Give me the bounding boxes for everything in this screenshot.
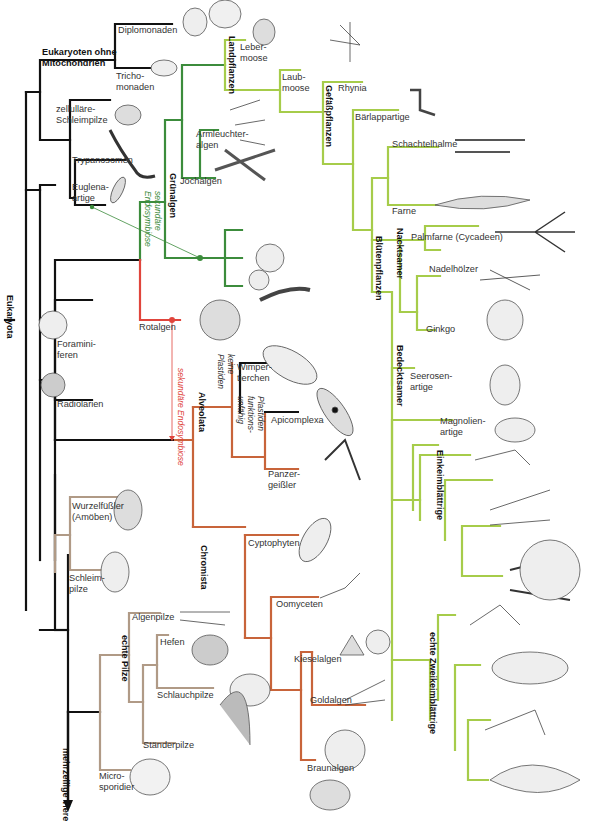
taxon-magnolienartige: Magnolien- artige	[440, 416, 485, 438]
annotation-sekundaere-endosymbiose-red: sekundäre Endosymbiose	[176, 368, 186, 466]
label-mehrzellige-tiere: mehrzellige Tiere	[60, 748, 71, 821]
label-nacktsamer: Nacktsamer	[394, 228, 405, 279]
taxon-schleimpilze: Schleim- pilze	[69, 573, 105, 595]
label-gefaesspflanzen: Gefäßpflanzen	[323, 85, 334, 147]
taxon-foraminiferen: Foramini- feren	[57, 339, 96, 361]
taxon-seerosenartige: Seerosen- artige	[410, 371, 452, 393]
taxon-wimpertierchen: Wimper- tierchen	[237, 362, 272, 384]
taxon-trypanosomen: Trypanosomen	[72, 155, 133, 166]
taxon-schachtelhalme: Schachtelhalme	[392, 139, 457, 150]
taxon-kieselalgen: Kieselalgen	[294, 654, 342, 665]
taxon-panzergeissler: Panzer- geißler	[268, 469, 300, 491]
annotation-plastiden-funktionsunfaehig: Plastiden funktions- unfähig	[236, 396, 266, 433]
label-zweikeimblaettrige: echte Zweikeimblättrige	[427, 632, 438, 734]
tan-branches	[55, 497, 213, 770]
taxon-oomyceten: Oomyceten	[276, 599, 323, 610]
taxon-nadelhoelzer: Nadelhölzer	[429, 264, 478, 275]
taxon-trichomonaden: Tricho- monaden	[116, 71, 154, 93]
taxon-laubmoose: Laub- moose	[282, 72, 310, 94]
taxon-ginkgo: Ginkgo	[426, 324, 455, 335]
taxon-algenpilze: Algenpilze	[132, 612, 174, 623]
label-echte-pilze: echte Pilze	[119, 635, 130, 682]
taxon-cyptophyten: Cyptophyten	[248, 538, 300, 549]
taxon-goldalgen: Goldalgen	[310, 695, 352, 706]
taxon-palmfarne: Palmfarne (Cycadeen)	[411, 232, 503, 243]
taxon-euglena: Euglena- artige	[72, 182, 109, 204]
label-landpflanzen: Landpflanzen	[226, 36, 237, 94]
annotation-keine-plastiden: keine Plastiden	[216, 354, 236, 389]
label-chromista: Chromista	[198, 545, 209, 590]
label-eukaryoten-ohne-mito: Eukaryoten ohne Mitochondrien	[42, 47, 117, 69]
taxon-rhynia: Rhynia	[338, 83, 367, 94]
annotation-sekundaere-endosymbiose-green: sekundäre Endosymbiose	[143, 191, 163, 247]
taxon-baerlappartige: Bärlappartige	[355, 112, 410, 123]
organism-illustrations	[39, 0, 580, 810]
taxon-farne: Farne	[392, 206, 416, 217]
taxon-braunalgen: Braunalgen	[307, 763, 354, 774]
label-gruenalgen: Grünalgen	[167, 173, 178, 218]
taxon-lebermoose: Leber- moose	[240, 42, 268, 64]
taxon-hefen: Hefen	[160, 637, 185, 648]
taxon-rotalgen: Rotalgen	[139, 322, 176, 333]
label-bluetenpflanzen: Blütenpflanzen	[373, 236, 384, 301]
label-eukaryota: Eukaryota	[4, 295, 15, 339]
taxon-staenderpilze: Ständerpilze	[143, 740, 194, 751]
taxon-diplomonaden: Diplomonaden	[118, 25, 177, 36]
label-alveolata: Alveolata	[196, 392, 207, 432]
taxon-apicomplexa: Apicomplexa	[271, 415, 324, 426]
taxon-radiolarien: Radiolarien	[57, 399, 103, 410]
taxon-armleuchteralgen: Armleuchter- algen	[196, 129, 249, 151]
label-bedecktsamer: Bedecktsamer	[394, 345, 405, 407]
taxon-wurzelfuessler: Wurzelfüßler (Amöben)	[72, 501, 124, 523]
taxon-zellulaere-schleimpilze: zellulläre- Schleimpilze	[56, 104, 108, 126]
label-einkeimblaettrige: Einkeimblättrige	[434, 450, 445, 520]
red-branches	[140, 260, 180, 320]
taxon-microsporidier: Micro- sporidier	[99, 771, 134, 793]
taxon-schlauchpilze: Schlauchpilze	[157, 690, 214, 701]
taxon-jochalgen: Jochalgen	[180, 176, 222, 187]
